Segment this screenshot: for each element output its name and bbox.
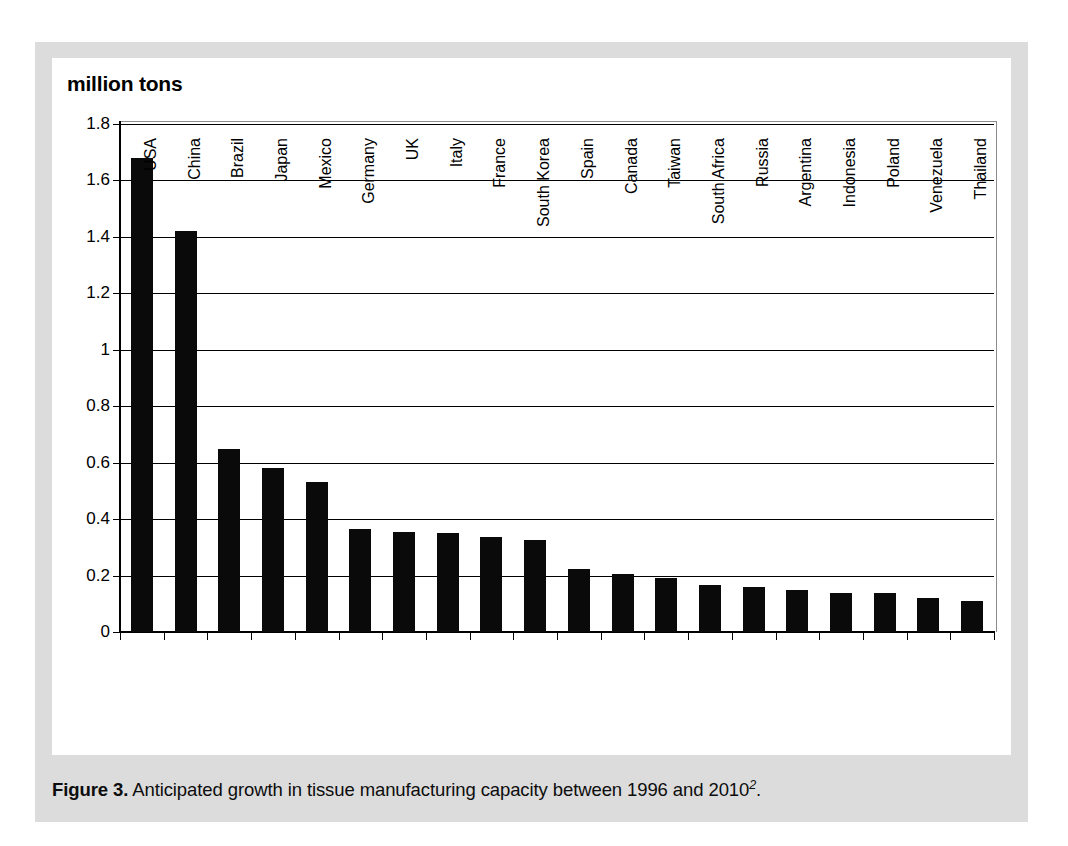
y-axis-tick: [113, 180, 120, 181]
bar: [743, 587, 765, 632]
x-axis-label: Brazil: [229, 138, 247, 178]
chart-axis-title: million tons: [67, 72, 182, 96]
x-axis-label: Spain: [579, 138, 597, 179]
x-axis-label: Japan: [273, 138, 291, 182]
y-axis-label: 1.8: [86, 114, 110, 134]
x-axis-label: UK: [404, 138, 422, 160]
figure-caption-text: Anticipated growth in tissue manufacturi…: [132, 779, 749, 800]
bar: [131, 158, 153, 632]
x-axis-tick: [339, 632, 340, 640]
bar: [218, 449, 240, 632]
bar: [917, 598, 939, 632]
y-axis-label: 0.4: [86, 509, 110, 529]
x-axis-label: Taiwan: [666, 138, 684, 188]
x-axis-tick: [688, 632, 689, 640]
x-axis-label: Argentina: [797, 138, 815, 207]
y-axis-label: 1.6: [86, 170, 110, 190]
bar: [568, 569, 590, 633]
x-axis-label: France: [491, 138, 509, 188]
y-axis-tick: [113, 463, 120, 464]
figure-panel: million tons 00.20.40.60.811.21.41.61.8 …: [52, 58, 1011, 755]
y-axis-tick: [113, 519, 120, 520]
y-axis-tick: [113, 293, 120, 294]
x-axis-tick: [557, 632, 558, 640]
figure-caption-suffix: .: [756, 779, 761, 800]
x-axis-tick: [426, 632, 427, 640]
x-axis-tick: [164, 632, 165, 640]
figure-caption: Figure 3. Anticipated growth in tissue m…: [52, 778, 1011, 801]
x-axis-label: Germany: [360, 138, 378, 204]
figure-frame: million tons 00.20.40.60.811.21.41.61.8 …: [35, 42, 1028, 822]
bar: [262, 468, 284, 632]
x-axis-tick: [470, 632, 471, 640]
x-axis-tick: [644, 632, 645, 640]
x-axis-tick: [907, 632, 908, 640]
y-axis-tick: [113, 237, 120, 238]
x-axis-tick: [819, 632, 820, 640]
y-axis-tick: [113, 632, 120, 633]
x-axis-label: Thailand: [972, 138, 990, 199]
y-axis-label: 0.8: [86, 396, 110, 416]
plot-border-right: [996, 121, 997, 632]
plot-area: 00.20.40.60.811.21.41.61.8 USAChinaBrazi…: [120, 124, 994, 632]
x-axis-tick: [601, 632, 602, 640]
x-axis-label: Indonesia: [841, 138, 859, 207]
y-axis-label: 0.2: [86, 566, 110, 586]
bar: [874, 593, 896, 633]
bar: [655, 578, 677, 632]
y-axis-label: 1.4: [86, 227, 110, 247]
x-axis-tick: [120, 632, 121, 640]
bar: [480, 537, 502, 632]
x-axis-tick: [863, 632, 864, 640]
x-axis-label: Russia: [754, 138, 772, 187]
y-axis-tick: [113, 350, 120, 351]
x-axis-label: Mexico: [317, 138, 335, 189]
y-axis-label: 1: [101, 340, 110, 360]
bar: [349, 529, 371, 632]
y-axis-label: 0: [101, 622, 110, 642]
x-axis-label: Canada: [623, 138, 641, 194]
plot-border-top: [120, 121, 997, 122]
x-axis-label: Venezuela: [928, 138, 946, 213]
bar: [786, 590, 808, 632]
x-axis-label: China: [186, 138, 204, 180]
y-axis-tick: [113, 406, 120, 407]
y-axis-tick: [113, 576, 120, 577]
bar: [961, 601, 983, 632]
y-axis-tick: [113, 124, 120, 125]
x-axis-tick: [950, 632, 951, 640]
bar: [175, 231, 197, 632]
x-axis-tick: [251, 632, 252, 640]
bar: [830, 593, 852, 633]
bar: [612, 574, 634, 632]
bar: [699, 585, 721, 632]
x-axis-tick: [513, 632, 514, 640]
x-axis-tick: [207, 632, 208, 640]
y-axis-label: 1.2: [86, 283, 110, 303]
bar: [306, 482, 328, 632]
bar-series: [120, 124, 994, 632]
bar: [437, 533, 459, 632]
x-axis-label: Poland: [885, 138, 903, 188]
x-axis-label: South Africa: [710, 138, 728, 224]
x-axis-tick: [295, 632, 296, 640]
x-axis-label: South Korea: [535, 138, 553, 227]
bar: [393, 532, 415, 632]
bar: [524, 540, 546, 632]
x-axis-tick: [382, 632, 383, 640]
x-axis-label: Italy: [448, 138, 466, 167]
figure-number: Figure 3.: [52, 779, 128, 800]
x-axis-tick: [994, 632, 995, 640]
x-axis-tick: [776, 632, 777, 640]
x-axis-tick: [732, 632, 733, 640]
x-axis-label: USA: [142, 138, 160, 171]
y-axis-label: 0.6: [86, 453, 110, 473]
